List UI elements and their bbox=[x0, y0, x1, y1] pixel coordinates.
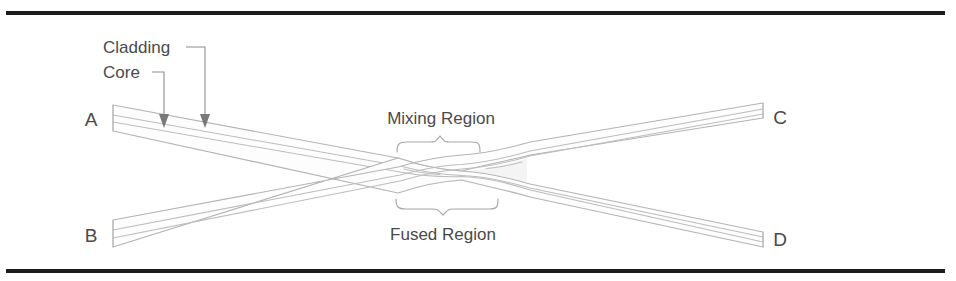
fused-region-brace bbox=[396, 199, 498, 215]
coupler-diagram: Cladding Core Mixing Region Fused Region… bbox=[0, 0, 956, 281]
port-label-a: A bbox=[85, 109, 98, 130]
port-label-b: B bbox=[85, 225, 98, 246]
mixing-region-label: Mixing Region bbox=[387, 109, 495, 128]
cladding-leader bbox=[186, 47, 210, 128]
core-leader-line bbox=[152, 72, 164, 117]
figure-container: Cladding Core Mixing Region Fused Region… bbox=[0, 0, 956, 281]
port-label-c: C bbox=[773, 107, 787, 128]
fused-region-label: Fused Region bbox=[390, 225, 496, 244]
mixing-region-brace bbox=[397, 136, 480, 152]
port-label-d: D bbox=[773, 229, 787, 250]
cladding-label: Cladding bbox=[103, 38, 170, 57]
core-label: Core bbox=[103, 63, 140, 82]
cladding-leader-line bbox=[186, 47, 205, 117]
